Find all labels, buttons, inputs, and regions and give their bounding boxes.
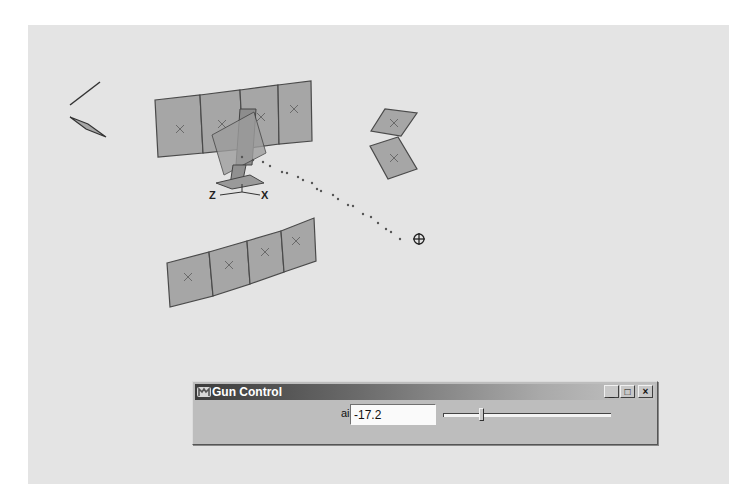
- maximize-icon: □: [624, 387, 630, 397]
- panel: [155, 95, 203, 157]
- panel: [371, 109, 417, 136]
- trajectory-dot: [269, 165, 271, 167]
- trajectory-dot: [320, 190, 322, 192]
- trajectory-dot: [332, 194, 334, 196]
- left-gizmo-icon: [70, 82, 106, 137]
- panel: [167, 252, 213, 307]
- minimize-icon: _: [609, 388, 615, 398]
- slider-thumb[interactable]: [479, 408, 484, 421]
- lower-panel-row: [167, 218, 316, 307]
- trajectory-dot: [316, 188, 318, 190]
- panel: [278, 81, 312, 144]
- close-button[interactable]: ×: [638, 385, 653, 398]
- trajectory-dot: [352, 205, 354, 207]
- trajectory-dot: [347, 204, 349, 206]
- z-axis: [220, 192, 242, 195]
- x-axis: [242, 192, 260, 195]
- trajectory-dot: [385, 228, 387, 230]
- panel: [209, 241, 250, 296]
- maximize-button[interactable]: □: [620, 385, 635, 398]
- trajectory-dot: [302, 179, 304, 181]
- aim-slider[interactable]: [443, 408, 611, 422]
- aim-input[interactable]: [350, 404, 436, 425]
- slider-track[interactable]: [443, 413, 611, 417]
- trajectory-dot: [399, 238, 401, 240]
- app-logo-icon: [197, 386, 211, 398]
- trajectory-dot: [286, 172, 288, 174]
- minimize-button[interactable]: _: [604, 385, 619, 398]
- close-icon: ×: [643, 387, 649, 397]
- panel: [247, 231, 284, 284]
- trajectory-dot: [311, 182, 313, 184]
- trajectory-dot: [390, 231, 392, 233]
- trajectory-dot: [377, 222, 379, 224]
- dialog-title: Gun Control: [212, 384, 282, 400]
- crosshair-target-icon: [413, 233, 425, 245]
- x-axis-label: X: [261, 189, 269, 201]
- trajectory-dot: [252, 159, 254, 161]
- trajectory-dot: [241, 156, 243, 158]
- trajectory-dot: [297, 176, 299, 178]
- trajectory-dot: [362, 213, 364, 215]
- trajectory-dot: [281, 171, 283, 173]
- trajectory-dot: [370, 216, 372, 218]
- right-panel-pair: [370, 109, 417, 179]
- z-axis-label: Z: [209, 189, 216, 201]
- rig-part: [216, 175, 264, 189]
- panel-groups: [155, 81, 417, 307]
- gun-control-dialog: Gun Control _ □ × aim: [192, 381, 658, 445]
- 3d-viewport[interactable]: ZX Gun Control _ □ × aim: [28, 25, 729, 484]
- trajectory-dot: [262, 161, 264, 163]
- trajectory-dot: [337, 198, 339, 200]
- panel: [370, 137, 417, 179]
- panel: [281, 218, 316, 272]
- dialog-titlebar[interactable]: Gun Control _ □ ×: [195, 384, 655, 400]
